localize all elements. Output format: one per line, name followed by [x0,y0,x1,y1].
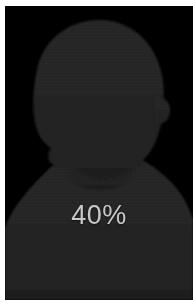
person-silhouette-shape [5,6,193,300]
person-silhouette [5,6,193,300]
silhouette-head-path [33,20,163,179]
silhouette-ear-path [155,98,170,124]
percent-label: 40% [5,202,193,229]
photo-plate: 40% [5,6,193,300]
image-frame: 40% [0,0,193,302]
